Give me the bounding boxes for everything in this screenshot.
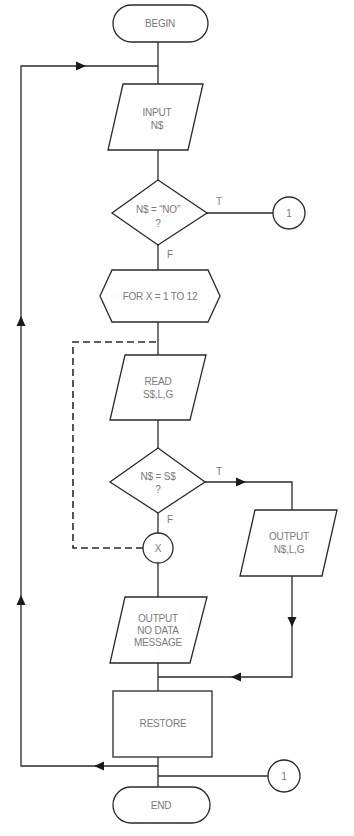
arrow-down-icon [288, 617, 297, 627]
edge-label-false: F [167, 514, 173, 525]
decision-match: N$ = S$ ? [110, 448, 205, 513]
arrow-right-icon [236, 478, 246, 487]
arrow-right-icon [76, 62, 86, 71]
end-terminator: END [113, 787, 210, 823]
output-match-label-line2: N$,L,G [274, 544, 305, 555]
arrow-up-icon [17, 595, 26, 605]
edge-label-true: T [216, 466, 222, 477]
for-loop-preparation: FOR X = 1 TO 12 [100, 270, 220, 322]
edge-label-true: T [216, 196, 222, 207]
end-label: END [151, 800, 172, 811]
decision-no-label-line1: N$ = “NO” [136, 204, 180, 215]
restore-process: RESTORE [113, 691, 212, 757]
connector-bottom-label: 1 [281, 771, 287, 782]
output-nodata-label-line2: NO DATA [137, 625, 179, 636]
output-nodata-io: OUTPUT NO DATA MESSAGE [110, 597, 207, 663]
output-match-io: OUTPUT N$,L,G [240, 510, 337, 576]
begin-label: BEGIN [145, 18, 175, 29]
flowchart-diagram: BEGIN INPUT N$ N$ = “NO” ? T F 1 FOR X =… [0, 0, 354, 836]
decision-no-label-line2: ? [155, 218, 161, 229]
read-label-line2: S$,L,G [143, 389, 173, 400]
connector-top: 1 [273, 197, 305, 229]
output-nodata-label-line1: OUTPUT [138, 613, 178, 624]
decision-no: N$ = “NO” ? [112, 180, 207, 245]
decision-match-label-line1: N$ = S$ [140, 471, 176, 482]
loop-end-label: X [155, 543, 162, 554]
arrow-left-icon [231, 673, 241, 682]
read-io: READ S$,L,G [110, 355, 206, 420]
input-io: INPUT N$ [108, 84, 203, 150]
arrow-left-icon [94, 762, 104, 771]
for-loop-label: FOR X = 1 TO 12 [123, 291, 198, 302]
input-label-line2: N$ [151, 120, 164, 131]
arrow-up-icon [17, 316, 26, 326]
output-match-label-line1: OUTPUT [269, 531, 309, 542]
output-nodata-label-line3: MESSAGE [134, 637, 183, 648]
connector-top-label: 1 [286, 208, 292, 219]
read-label-line1: READ [145, 376, 172, 387]
restore-label: RESTORE [140, 718, 187, 729]
input-label-line1: INPUT [142, 107, 171, 118]
edge-label-false: F [167, 249, 173, 260]
begin-terminator: BEGIN [113, 5, 208, 42]
loop-end-connector: X [143, 533, 173, 563]
decision-match-label-line2: ? [155, 484, 161, 495]
connector-bottom: 1 [268, 760, 300, 792]
line-decision-match-true [205, 482, 292, 510]
